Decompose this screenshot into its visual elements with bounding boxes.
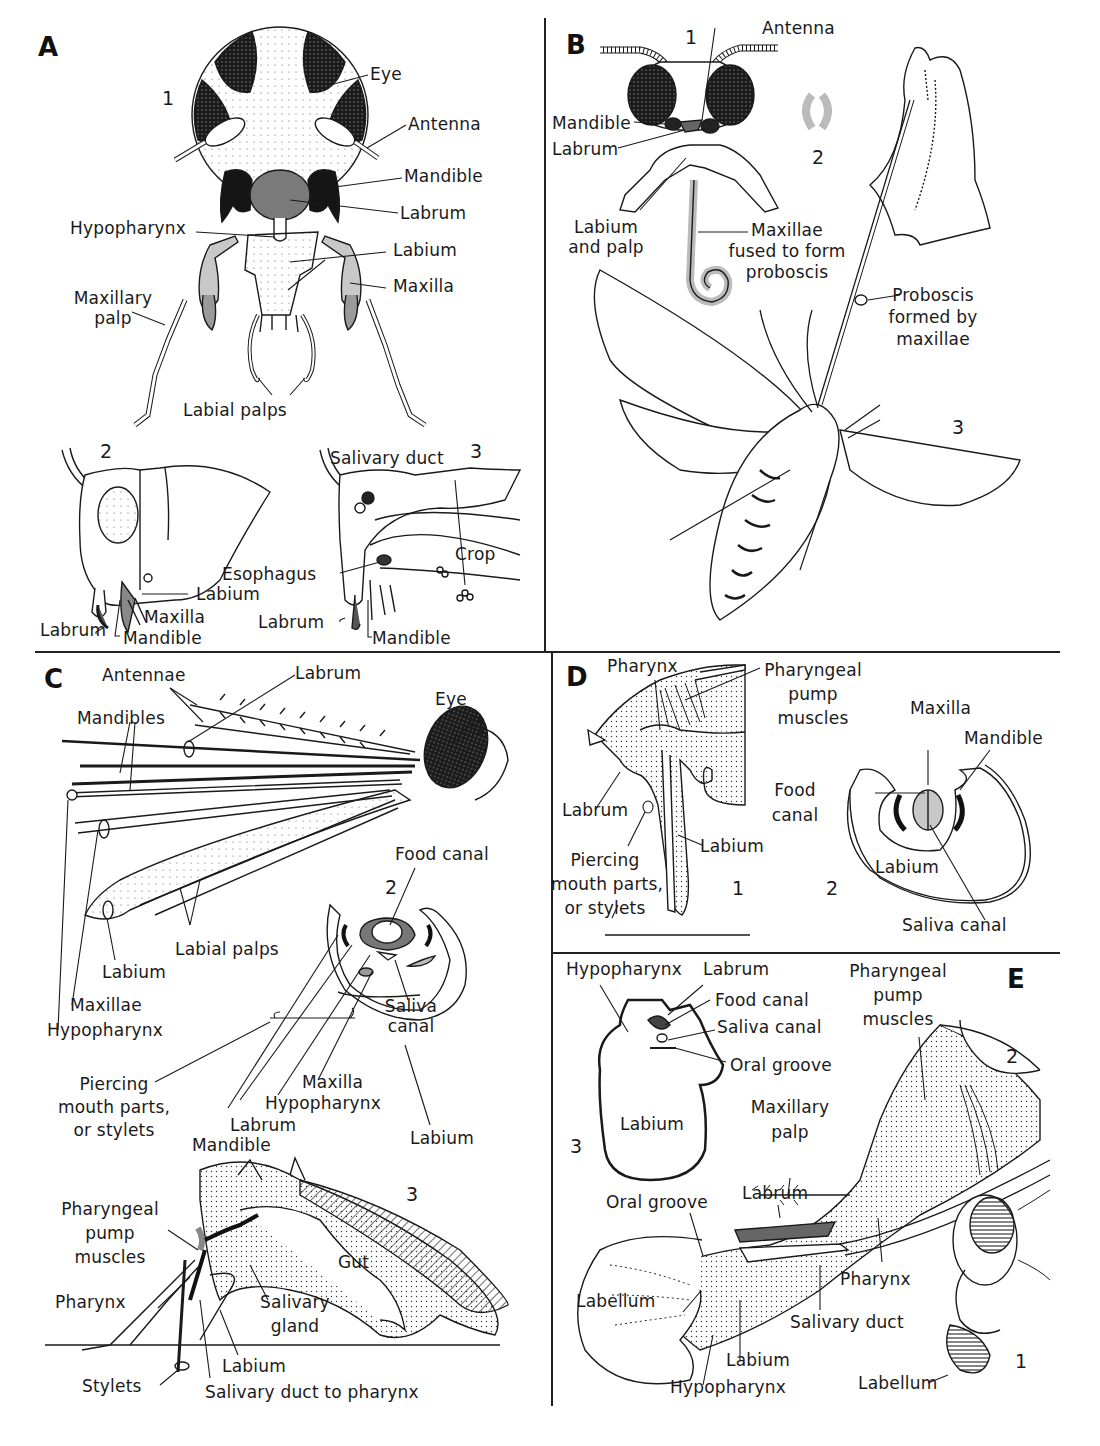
label-d2-maxilla: Maxilla <box>910 698 971 718</box>
panel-b-view-3-number: 3 <box>952 416 964 438</box>
label-c-maxillae: Maxillae <box>70 995 142 1015</box>
label-b-maxillae-fused: Maxillae fused to form proboscis <box>728 220 846 283</box>
label-d2-food-canal: Food canal <box>770 778 820 828</box>
label-e2-oral-groove: Oral groove <box>606 1192 708 1212</box>
label-maxillary-palp: Maxillary palp <box>70 288 156 328</box>
label-e3-hypopharynx: Hypopharynx <box>566 959 682 979</box>
label-a3-esophagus: Esophagus <box>222 564 316 584</box>
label-c3-stylets: Stylets <box>82 1376 142 1396</box>
label-c3-salivary-duct-to-pharynx: Salivary duct to pharynx <box>205 1382 419 1402</box>
label-mandible: Mandible <box>404 166 483 186</box>
label-e2-salivary-duct: Salivary duct <box>790 1312 904 1332</box>
panel-letter-b: B <box>566 30 586 60</box>
label-a3-mandible: Mandible <box>372 628 451 648</box>
label-d2-mandible: Mandible <box>964 728 1043 748</box>
label-labial-palps: Labial palps <box>183 400 287 420</box>
label-c-antennae: Antennae <box>102 665 186 685</box>
label-d-pharynx: Pharynx <box>607 656 678 676</box>
label-c-hypopharynx: Hypopharynx <box>47 1020 163 1040</box>
panel-c-view-1-number: 1 <box>475 716 487 738</box>
label-e2-pharynx: Pharynx <box>840 1269 911 1289</box>
panel-d-view-2-number: 2 <box>826 877 838 899</box>
panel-e-view-2-number: 2 <box>1006 1045 1018 1067</box>
label-e1-labellum: Labellum <box>858 1373 938 1393</box>
label-c2-saliva-canal: Saliva canal <box>378 996 444 1036</box>
label-e3-food-canal: Food canal <box>715 990 809 1010</box>
label-a2-labrum: Labrum <box>40 620 106 640</box>
label-antenna: Antenna <box>408 114 481 134</box>
label-hypopharynx: Hypopharynx <box>70 218 186 238</box>
label-c2-labium: Labium <box>410 1128 474 1148</box>
label-d-piercing-mouth-parts: Piercing mouth parts, or stylets <box>551 848 659 920</box>
label-e3-labrum: Labrum <box>703 959 769 979</box>
label-c-labrum: Labrum <box>295 663 361 683</box>
panel-e-view-3-number: 3 <box>570 1135 582 1157</box>
label-a3-salivary-duct: Salivary duct <box>330 448 444 468</box>
label-c3-pharynx: Pharynx <box>55 1292 126 1312</box>
panel-letter-a: A <box>38 32 58 62</box>
label-a2-maxilla: Maxilla <box>144 607 205 627</box>
label-c2-labrum: Labrum <box>230 1115 296 1135</box>
label-c2-food-canal: Food canal <box>395 844 489 864</box>
label-c2-mandible: Mandible <box>192 1135 271 1155</box>
panel-d-view-1-number: 1 <box>732 877 744 899</box>
label-a3-labrum: Labrum <box>258 612 324 632</box>
panel-letter-c: C <box>44 664 63 694</box>
panel-c-view-2-number: 2 <box>385 876 397 898</box>
label-e2-hypopharynx: Hypopharynx <box>670 1377 786 1397</box>
label-b-antenna: Antenna <box>762 18 835 38</box>
label-maxilla: Maxilla <box>393 276 454 296</box>
label-c2-piercing-mouth-parts: Piercing mouth parts, or stylets <box>55 1073 173 1142</box>
label-c-mandibles: Mandibles <box>77 708 165 728</box>
panel-b-view-1-number: 1 <box>685 26 697 48</box>
label-c3-salivary-gland: Salivary gland <box>255 1290 335 1338</box>
label-d-pharyngeal-pump-muscles: Pharyngeal pump muscles <box>760 658 866 730</box>
label-a3-crop: Crop <box>455 544 495 564</box>
label-d-labium: Labium <box>700 836 764 856</box>
label-labrum: Labrum <box>400 203 466 223</box>
label-b-labrum: Labrum <box>552 139 618 159</box>
label-c-eye: Eye <box>435 689 467 709</box>
label-c2-maxilla: Maxilla <box>302 1072 363 1092</box>
label-c3-labium: Labium <box>222 1356 286 1376</box>
label-a2-mandible: Mandible <box>123 628 202 648</box>
label-b-labium-and-palp: Labium and palp <box>566 217 646 257</box>
panel-e-view-1-number: 1 <box>1015 1350 1027 1372</box>
label-c-labial-palps: Labial palps <box>175 939 279 959</box>
panel-b-view-2-number: 2 <box>812 146 824 168</box>
label-e3-labium: Labium <box>620 1114 684 1134</box>
label-e2-labellum: Labellum <box>576 1291 656 1311</box>
panel-c-view-3-number: 3 <box>406 1183 418 1205</box>
panel-a-view-3-number: 3 <box>470 440 482 462</box>
label-e3-saliva-canal: Saliva canal <box>717 1017 822 1037</box>
panel-letter-d: D <box>566 662 588 692</box>
panel-letter-e: E <box>1007 964 1025 994</box>
label-c-labium: Labium <box>102 962 166 982</box>
label-d2-labium: Labium <box>875 857 939 877</box>
label-e2-labium: Labium <box>726 1350 790 1370</box>
label-c3-pharyngeal-pump-muscles: Pharyngeal pump muscles <box>55 1197 165 1269</box>
label-e2-maxillary-palp: Maxillary palp <box>740 1095 840 1145</box>
label-c3-gut: Gut <box>338 1252 369 1272</box>
label-b-mandible: Mandible <box>552 113 631 133</box>
label-a2-labium: Labium <box>196 584 260 604</box>
panel-a-view-2-number: 2 <box>100 440 112 462</box>
label-d2-saliva-canal: Saliva canal <box>902 915 1007 935</box>
label-c2-hypopharynx: Hypopharynx <box>265 1093 381 1113</box>
label-e2-labrum: Labrum <box>742 1183 808 1203</box>
label-b-proboscis-formed: Proboscis formed by maxillae <box>883 284 983 350</box>
label-e2-pharyngeal-pump-muscles: Pharyngeal pump muscles <box>848 959 948 1031</box>
label-labium: Labium <box>393 240 457 260</box>
label-e3-oral-groove: Oral groove <box>730 1055 832 1075</box>
panel-a-view-1-number: 1 <box>162 87 174 109</box>
label-d-labrum: Labrum <box>562 800 628 820</box>
label-eye: Eye <box>370 64 402 84</box>
